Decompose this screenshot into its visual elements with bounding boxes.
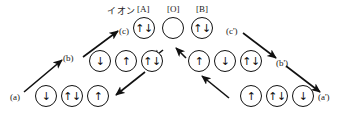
- spin-arrows: ↑↓: [63, 90, 80, 101]
- site-circle: ↓: [214, 50, 236, 72]
- spin-arrows: ↑: [94, 90, 103, 101]
- site-circle: ↑: [87, 85, 109, 107]
- site-circle: ↑: [188, 50, 210, 72]
- column-header-a: [A]: [137, 4, 150, 14]
- site-circle: ↓: [89, 50, 111, 72]
- site-circle: ↑: [115, 50, 137, 72]
- site-circle: ↑: [240, 85, 262, 107]
- site-circle: ↓: [292, 85, 314, 107]
- spin-arrows: ↑: [195, 55, 204, 66]
- site-circle: ↑↓: [141, 50, 163, 72]
- arrow-hop-right: [176, 48, 186, 58]
- stage-label-a-prime: (a'): [318, 92, 330, 102]
- spin-arrows: ↓: [299, 90, 308, 101]
- column-header-o: [O]: [167, 4, 180, 14]
- spin-arrows: ↑: [122, 55, 131, 66]
- site-circle: [162, 17, 184, 39]
- site-circle: ↑↓: [240, 50, 262, 72]
- spin-arrows: ↓: [42, 90, 51, 101]
- stage-label-c: (c): [119, 26, 129, 36]
- arrow-bottom-right-up: [202, 76, 229, 98]
- ion-label: イオン: [107, 4, 136, 17]
- spin-arrows: ↓: [96, 55, 105, 66]
- spin-arrows: ↑↓: [193, 22, 210, 33]
- spin-arrows: ↑↓: [135, 22, 152, 33]
- stage-label-b-prime: (b'): [276, 58, 288, 68]
- column-header-b: [B]: [196, 4, 208, 14]
- spin-arrows: ↑↓: [242, 55, 259, 66]
- stage-label-b: (b): [63, 53, 74, 63]
- site-circle: ↑↓: [191, 17, 213, 39]
- spin-arrows: ↑: [247, 90, 256, 101]
- figure-canvas: イオン [A] [O] [B] (a) (b) (c) (c') (b') (a…: [0, 0, 341, 118]
- site-circle: ↑↓: [266, 85, 288, 107]
- site-circle: ↓: [35, 85, 57, 107]
- stage-label-c-prime: (c'): [226, 26, 238, 36]
- site-circle: ↑↓: [133, 17, 155, 39]
- arrow-middle-left-down: [116, 72, 145, 95]
- spin-arrows: ↑↓: [268, 90, 285, 101]
- spin-arrows: ↑↓: [143, 55, 160, 66]
- site-circle: ↑↓: [61, 85, 83, 107]
- spin-arrows: ↓: [221, 55, 230, 66]
- stage-label-a: (a): [10, 92, 20, 102]
